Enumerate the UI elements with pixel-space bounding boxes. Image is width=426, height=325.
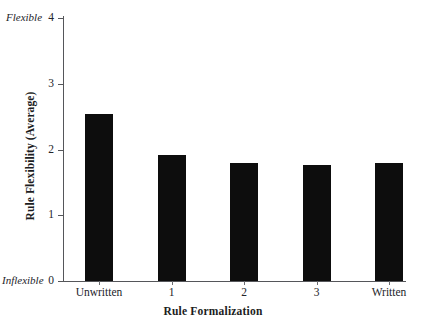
y-axis-tick-label-wrap: 1 — [0, 209, 54, 221]
y-axis-tick-label-wrap: 0 — [0, 275, 54, 287]
y-axis-tick-label: 3 — [0, 78, 54, 90]
x-axis-tick — [244, 281, 245, 285]
y-axis-tick-label: 0 — [0, 275, 54, 287]
x-axis-title: Rule Formalization — [0, 305, 426, 317]
bar-chart-figure: Flexible Inflexible Rule Flexibility (Av… — [0, 0, 426, 325]
y-axis-tick-label-wrap: 4 — [0, 12, 54, 24]
x-axis-tick-label: Written — [339, 287, 426, 299]
bar — [158, 155, 186, 281]
y-axis-tick-label-wrap: 2 — [0, 144, 54, 156]
x-axis-tick — [389, 281, 390, 285]
bar — [230, 163, 258, 281]
y-axis-tick-label: 4 — [0, 12, 54, 24]
x-axis-tick — [172, 281, 173, 285]
y-axis-tick — [58, 281, 64, 282]
x-axis-tick — [99, 281, 100, 285]
y-axis-tick-label-wrap: 3 — [0, 78, 54, 90]
x-axis-line — [62, 281, 406, 282]
x-axis-tick — [317, 281, 318, 285]
bar — [375, 163, 403, 281]
y-axis-tick-label: 1 — [0, 209, 54, 221]
bar — [303, 165, 331, 281]
plot-area — [63, 18, 405, 281]
bar — [85, 114, 113, 281]
y-axis-tick-label: 2 — [0, 144, 54, 156]
